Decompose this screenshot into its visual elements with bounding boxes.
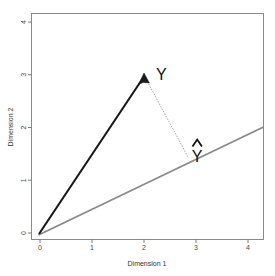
x-axis-title: Dimension 1	[128, 260, 167, 267]
scatter-plot-canvas: 0 1 2 3 4 Dimension 2 0 1 2 3 4 Dimensio…	[0, 0, 275, 276]
x-tick-label-2: 2	[142, 244, 146, 251]
x-tick-label-0: 0	[38, 244, 42, 251]
x-tick-label-3: 3	[194, 244, 198, 251]
x-tick-label-4: 4	[246, 244, 250, 251]
y-tick-label-0: 0	[20, 231, 27, 235]
plot-figure: 0 1 2 3 4 Dimension 2 0 1 2 3 4 Dimensio…	[0, 0, 275, 276]
y-tick-label-3: 3	[20, 73, 27, 77]
y-tick-label-1: 1	[20, 178, 27, 182]
y-tick-label-4: 4	[20, 20, 27, 24]
x-tick-label-1: 1	[90, 244, 94, 251]
label-y: Y	[156, 66, 167, 83]
label-yhat: Y	[192, 148, 203, 165]
y-tick-label-2: 2	[20, 125, 27, 129]
y-axis-title: Dimension 2	[7, 107, 14, 146]
